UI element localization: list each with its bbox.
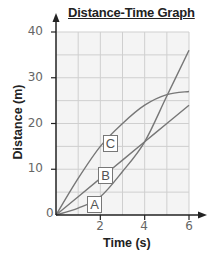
y-tick-20: 20 [13,116,43,130]
x-axis-label: Time (s) [103,236,151,250]
series-label-c: C [103,135,118,152]
y-axis-arrow-icon [53,13,60,22]
x-tick-6: 6 [179,219,199,233]
x-tick-2: 2 [90,219,110,233]
y-tick-40: 40 [13,24,43,38]
series-label-a: A [87,196,102,213]
y-tick-10: 10 [13,161,43,175]
y-tick-30: 30 [13,70,43,84]
x-tick-4: 4 [134,219,154,233]
origin-label: 0 [46,206,54,220]
series-label-b: B [98,167,113,184]
chart-title: Distance-Time Graph [68,5,195,20]
x-axis-arrow-icon [198,212,207,219]
